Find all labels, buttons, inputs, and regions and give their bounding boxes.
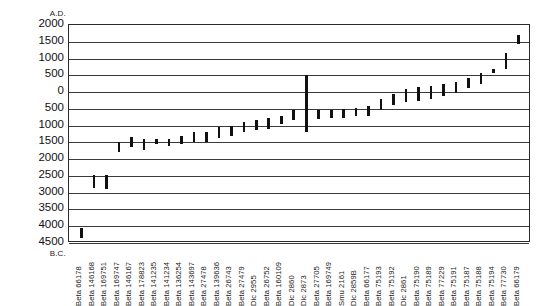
- range-bar: [480, 73, 483, 84]
- plot-area: [68, 24, 530, 242]
- range-bar: [405, 89, 408, 102]
- y-tick-label: 4500: [6, 236, 64, 247]
- x-tick-label: Beta 75187: [463, 266, 471, 306]
- y-tick-label: 2000: [6, 152, 64, 163]
- range-bar: [430, 86, 433, 99]
- x-tick-label: Dic 2860: [288, 275, 296, 306]
- range-bar: [417, 87, 420, 100]
- range-bar: [243, 122, 246, 131]
- range-bar: [118, 142, 121, 152]
- y-tick-label: 3000: [6, 186, 64, 197]
- gridline: [69, 92, 529, 93]
- gridline: [69, 42, 529, 43]
- x-tick-label: Beta 26743: [225, 266, 233, 306]
- range-bar: [230, 126, 233, 136]
- x-tick-label: Beta 75193: [375, 266, 383, 306]
- gridline: [69, 159, 529, 160]
- x-tick-label: Beta 27479: [238, 266, 246, 306]
- range-bar: [455, 82, 458, 93]
- x-tick-label: Beta 66177: [363, 266, 371, 306]
- x-tick-label: Dic 2861: [400, 275, 408, 306]
- y-axis-bottom-caption: B.C.: [14, 249, 66, 258]
- range-bar: [130, 137, 133, 147]
- y-tick-label: 2000: [6, 18, 64, 29]
- range-bar: [180, 136, 183, 144]
- x-tick-label: Dic 2955: [250, 275, 258, 306]
- range-bar: [168, 139, 171, 146]
- y-tick-label: 2500: [6, 169, 64, 180]
- x-tick-label: Beta 75188: [475, 266, 483, 306]
- range-bar: [80, 228, 83, 238]
- gridline: [69, 109, 529, 110]
- x-tick-label: Beta 178823: [138, 262, 146, 306]
- x-tick-label: Beta 160109: [275, 262, 283, 306]
- x-tick-label: Beta 143697: [188, 262, 196, 306]
- x-tick-label: Beta 146168: [88, 262, 96, 306]
- range-bar: [267, 118, 270, 129]
- range-bar: [193, 132, 196, 141]
- gridline: [69, 226, 529, 227]
- range-bar: [205, 132, 208, 142]
- x-tick-label: Beta 77229: [438, 266, 446, 306]
- radiocarbon-date-chart: A.D. B.C. 200015001000500050010001500200…: [0, 0, 553, 306]
- x-tick-label: Beta 77730: [500, 266, 508, 306]
- range-bar: [492, 69, 495, 74]
- range-bar: [155, 139, 158, 144]
- range-bar: [342, 109, 345, 118]
- x-tick-label: Smu 2161: [338, 271, 346, 306]
- x-tick-label: Beta 26752: [263, 266, 271, 306]
- y-tick-label: 4000: [6, 219, 64, 230]
- range-bar: [355, 108, 358, 116]
- gridline: [69, 142, 529, 143]
- x-tick-label: Beta 169747: [113, 262, 121, 306]
- x-tick-label: Beta 75191: [450, 266, 458, 306]
- x-tick-label: Beta 66179: [513, 266, 521, 306]
- range-bar: [317, 110, 320, 119]
- x-tick-label: Dic 2873: [300, 275, 308, 306]
- x-tick-label: Beta 146167: [125, 262, 133, 306]
- y-tick-label: 1500: [6, 35, 64, 46]
- range-bar: [292, 110, 295, 121]
- range-bar: [467, 78, 470, 88]
- x-tick-label: Beta 27705: [313, 266, 321, 306]
- range-bar: [380, 99, 383, 110]
- y-tick-label: 0: [6, 85, 64, 96]
- x-tick-label: Beta 66178: [75, 266, 83, 306]
- range-bar: [280, 116, 283, 125]
- range-bar: [218, 127, 221, 138]
- range-bar: [305, 75, 308, 132]
- x-tick-label: Beta 169749: [325, 262, 333, 306]
- y-tick-label: 1000: [6, 52, 64, 63]
- x-tick-label: Beta 141235: [150, 262, 158, 306]
- range-bar: [392, 94, 395, 105]
- x-tick-label: Beta 139636: [213, 262, 221, 306]
- y-tick-label: 1000: [6, 119, 64, 130]
- range-bar: [505, 53, 508, 69]
- x-axis-tick-labels: Beta 66178Beta 146168Beta 169751Beta 169…: [68, 244, 530, 306]
- x-tick-label: Beta 75194: [488, 266, 496, 306]
- gridline: [69, 126, 529, 127]
- y-tick-label: 500: [6, 102, 64, 113]
- x-tick-label: Beta 27478: [200, 266, 208, 306]
- range-bar: [93, 175, 96, 188]
- y-tick-label: 1500: [6, 135, 64, 146]
- y-tick-label: 500: [6, 68, 64, 79]
- range-bar: [143, 139, 146, 150]
- y-tick-label: 3500: [6, 202, 64, 213]
- range-bar: [517, 35, 520, 44]
- x-tick-label: Beta 75192: [388, 266, 396, 306]
- x-tick-label: Beta 75190: [413, 266, 421, 306]
- gridline: [69, 193, 529, 194]
- x-tick-label: Beta 141234: [163, 262, 171, 306]
- range-bar: [255, 120, 258, 129]
- range-bar: [330, 110, 333, 118]
- x-tick-label: Beta 169751: [100, 262, 108, 306]
- gridline: [69, 75, 529, 76]
- x-tick-label: Beta 136254: [175, 262, 183, 306]
- gridline: [69, 209, 529, 210]
- range-bar: [442, 84, 445, 96]
- gridline: [69, 59, 529, 60]
- range-bar: [367, 106, 370, 115]
- x-tick-label: Dic 2859B: [350, 270, 358, 306]
- x-tick-label: Beta 75189: [425, 266, 433, 306]
